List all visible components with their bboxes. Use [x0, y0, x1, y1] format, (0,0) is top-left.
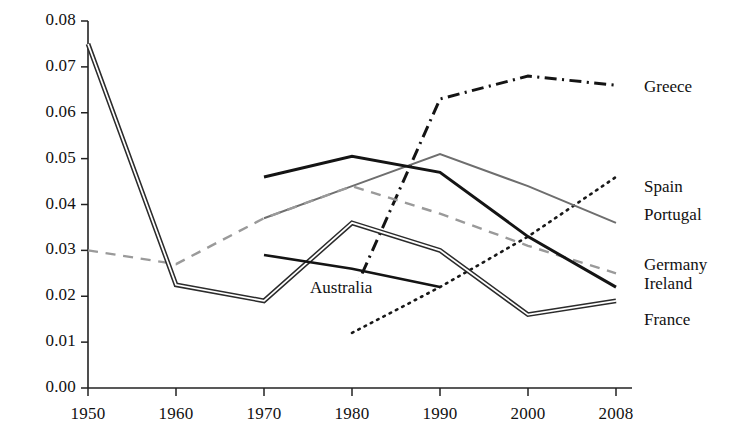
x-axis-tick-label: 2008: [594, 404, 638, 424]
x-axis-tick-label: 1960: [154, 404, 198, 424]
series-france: [88, 44, 616, 315]
series-ireland: [264, 156, 616, 287]
y-axis-tick-label: 0.08: [45, 10, 76, 30]
y-axis-tick-label: 0.07: [45, 56, 76, 76]
x-axis-tick-label: 1970: [242, 404, 286, 424]
y-axis-tick-label: 0.03: [45, 239, 76, 259]
series-label-germany: Germany: [644, 255, 707, 275]
y-axis-tick-label: 0.06: [45, 102, 76, 122]
line-chart-plot: [0, 0, 754, 446]
series-label-portugal: Portugal: [644, 205, 702, 225]
x-axis-tick-label: 2000: [506, 404, 550, 424]
series-spain: [352, 177, 616, 333]
chart-container: 0.000.010.020.030.040.050.060.070.081950…: [0, 0, 754, 446]
y-axis-tick-label: 0.02: [45, 285, 76, 305]
series-label-ireland: Ireland: [644, 274, 692, 294]
x-axis-tick-label: 1950: [66, 404, 110, 424]
series-label-greece: Greece: [644, 77, 692, 97]
y-axis-tick-label: 0.01: [45, 331, 76, 351]
series-label-spain: Spain: [644, 177, 683, 197]
y-axis-tick-label: 0.00: [45, 377, 76, 397]
x-axis-tick-label: 1990: [418, 404, 462, 424]
y-axis-tick-label: 0.04: [45, 194, 76, 214]
inline-series-label-australia: Australia: [308, 278, 374, 298]
y-axis-tick-label: 0.05: [45, 148, 76, 168]
x-axis-tick-label: 1980: [330, 404, 374, 424]
series-label-france: France: [644, 310, 690, 330]
